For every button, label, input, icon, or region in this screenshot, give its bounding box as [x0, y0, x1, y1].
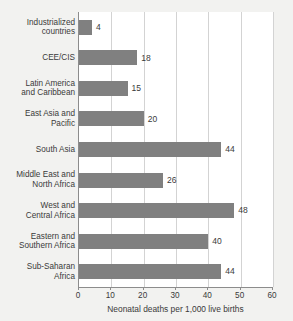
- bar-value-label: 44: [225, 267, 234, 276]
- x-tick-label-40: 40: [203, 292, 212, 300]
- x-axis-title: Neonatal deaths per 1,000 live births: [78, 305, 273, 313]
- bar: [79, 142, 221, 157]
- bar-rows: 41815204426484044: [79, 12, 273, 287]
- bar-row: 18: [79, 43, 273, 74]
- bar-row: 44: [79, 134, 273, 165]
- bar-value-label: 4: [96, 23, 101, 32]
- plot-area: 41815204426484044: [78, 12, 273, 287]
- bar: [79, 264, 221, 279]
- bar-row: 4: [79, 12, 273, 43]
- category-label: Latin America and Caribbean: [0, 79, 75, 98]
- bar: [79, 173, 163, 188]
- category-label: Industrialized countries: [0, 18, 75, 37]
- bar-row: 40: [79, 226, 273, 257]
- bar-value-label: 18: [141, 54, 150, 63]
- category-label: Sub-Saharan Africa: [0, 262, 75, 281]
- category-label: CEE/CIS: [0, 53, 75, 63]
- bar: [79, 81, 128, 96]
- bar-row: 44: [79, 256, 273, 287]
- bar-row: 48: [79, 195, 273, 226]
- x-tick-mark-50: [240, 287, 241, 290]
- category-label: South Asia: [0, 145, 75, 155]
- bar-value-label: 48: [238, 206, 247, 215]
- x-tick-label-0: 0: [76, 292, 81, 300]
- category-label: West and Central Africa: [0, 201, 75, 220]
- bar-value-label: 15: [132, 84, 141, 93]
- x-tick-mark-0: [78, 287, 79, 290]
- bar-value-label: 20: [148, 115, 157, 124]
- bar: [79, 203, 234, 218]
- bar-row: 15: [79, 73, 273, 104]
- x-tick-label-20: 20: [138, 292, 147, 300]
- bar: [79, 111, 144, 126]
- category-label: East Asia and Pacific: [0, 109, 75, 128]
- bar: [79, 20, 92, 35]
- x-tick-label-60: 60: [267, 292, 276, 300]
- x-tick-label-30: 30: [170, 292, 179, 300]
- gridline-60: [273, 12, 274, 287]
- category-label: Middle East and North Africa: [0, 170, 75, 189]
- neonatal-deaths-bar-chart: 41815204426484044 Industrialized countri…: [0, 0, 293, 321]
- x-tick-mark-30: [175, 287, 176, 290]
- category-label: Eastern and Southern Africa: [0, 232, 75, 251]
- x-tick-mark-40: [207, 287, 208, 290]
- bar-value-label: 44: [225, 145, 234, 154]
- bar-value-label: 40: [212, 237, 221, 246]
- bar: [79, 50, 137, 65]
- x-tick-label-50: 50: [235, 292, 244, 300]
- x-tick-label-10: 10: [106, 292, 115, 300]
- bar-row: 20: [79, 104, 273, 135]
- bar: [79, 234, 208, 249]
- x-tick-mark-10: [110, 287, 111, 290]
- x-tick-mark-60: [272, 287, 273, 290]
- x-tick-mark-20: [143, 287, 144, 290]
- bar-value-label: 26: [167, 176, 176, 185]
- category-axis-labels: Industrialized countriesCEE/CISLatin Ame…: [0, 12, 75, 287]
- bar-row: 26: [79, 165, 273, 196]
